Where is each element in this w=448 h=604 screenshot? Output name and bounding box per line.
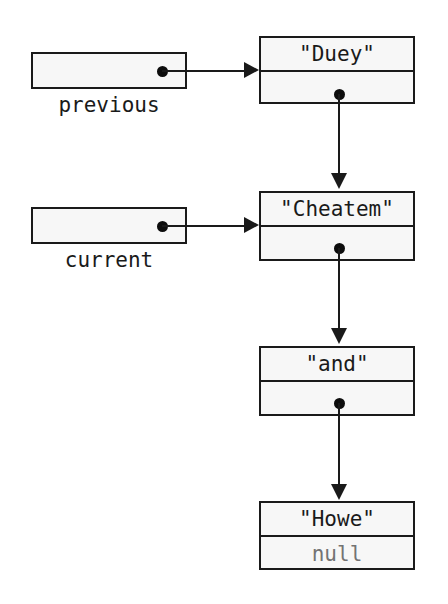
variable-label-previous: previous [31,93,187,117]
link-cheatem-to-and-line [338,248,340,328]
link-duey-to-cheatem-line [338,94,340,174]
link-and-to-howe-arrow [331,484,347,500]
node-and-value: "and" [261,348,413,382]
node-duey-value: "Duey" [261,38,413,72]
link-and-to-howe-line [338,403,340,485]
link-duey-to-cheatem-arrow [331,173,347,189]
node-howe: "Howe" null [259,501,415,570]
current-arrow-head [244,217,259,233]
node-cheatem-value: "Cheatem" [261,193,413,227]
variable-label-current: current [31,248,187,272]
diagram-canvas: previous current "Duey" "Cheatem" "and" … [0,0,448,604]
link-cheatem-to-and-arrow [331,328,347,344]
current-arrow-line [162,225,246,227]
node-howe-value: "Howe" [261,503,413,537]
previous-arrow-head [244,62,259,78]
previous-arrow-line [162,70,246,72]
node-howe-next: null [261,537,413,570]
